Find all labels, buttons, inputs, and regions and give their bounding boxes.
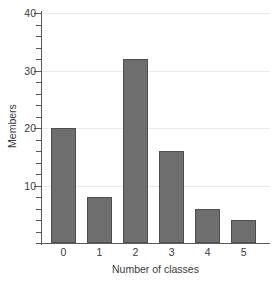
y-tick-minor <box>36 48 41 49</box>
y-tick-minor <box>36 94 41 95</box>
y-tick-minor <box>36 220 41 221</box>
x-tick-label: 2 <box>120 247 150 258</box>
x-axis-title: Number of classes <box>41 263 270 275</box>
y-axis-line <box>41 11 42 245</box>
y-tick-minor <box>36 174 41 175</box>
y-tick-minor <box>36 243 41 244</box>
x-tick-label: 3 <box>157 247 187 258</box>
x-tick-label: 4 <box>193 247 223 258</box>
bar <box>51 128 76 243</box>
bar <box>87 197 112 243</box>
y-axis-title: Members <box>6 86 18 166</box>
y-tick-minor <box>36 36 41 37</box>
y-tick-minor <box>36 117 41 118</box>
plot-area <box>41 13 270 243</box>
gridline <box>41 13 270 14</box>
bar <box>231 220 256 243</box>
y-tick-minor <box>36 25 41 26</box>
y-tick-minor <box>36 59 41 60</box>
y-tick-minor <box>36 140 41 141</box>
y-tick-minor <box>36 82 41 83</box>
gridline <box>41 71 270 72</box>
y-tick-minor <box>36 197 41 198</box>
bar <box>123 59 148 243</box>
y-tick-minor <box>36 163 41 164</box>
y-tick-minor <box>36 105 41 106</box>
x-axis-line <box>41 243 270 244</box>
x-tick-label: 5 <box>229 247 259 258</box>
y-tick-label: 40 <box>0 8 36 19</box>
y-tick-minor <box>36 209 41 210</box>
x-tick-label: 1 <box>84 247 114 258</box>
y-tick-label: 10 <box>0 181 36 192</box>
bar <box>159 151 184 243</box>
y-tick-minor <box>36 151 41 152</box>
y-tick-minor <box>36 232 41 233</box>
x-tick-label: 0 <box>48 247 78 258</box>
y-tick-label: 30 <box>0 66 36 77</box>
bar <box>195 209 220 244</box>
bar-chart: 10203040 012345 Members Number of classe… <box>0 0 274 281</box>
